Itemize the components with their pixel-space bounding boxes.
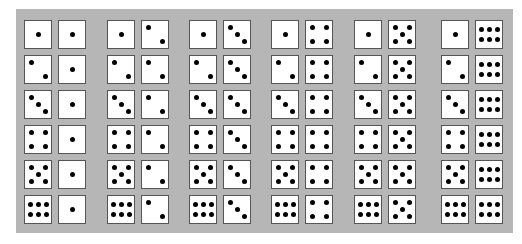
pip-icon <box>36 32 41 37</box>
pip-icon <box>36 172 41 177</box>
pip-icon <box>487 37 492 42</box>
pip-icon <box>44 212 49 217</box>
pip-icon <box>310 39 315 44</box>
pip-icon <box>446 165 451 170</box>
pip-icon <box>393 165 398 170</box>
pip-icon <box>146 60 151 65</box>
pip-icon <box>445 202 450 207</box>
pip-icon <box>44 202 49 207</box>
pip-icon <box>393 179 398 184</box>
pip-icon <box>209 212 214 217</box>
pip-icon <box>487 62 492 67</box>
pip-icon <box>310 95 315 100</box>
pip-icon <box>407 109 412 114</box>
pip-icon <box>460 144 465 149</box>
pip-icon <box>446 144 451 149</box>
pip-icon <box>479 107 484 112</box>
die-six-icon <box>475 90 503 119</box>
pip-icon <box>407 200 412 205</box>
pip-icon <box>324 25 329 30</box>
pip-icon <box>70 207 75 212</box>
pip-icon <box>495 72 500 77</box>
die-two-icon <box>354 55 382 84</box>
die-six-icon <box>441 195 469 224</box>
pip-icon <box>228 130 233 135</box>
die-one-icon <box>58 195 86 224</box>
pip-icon <box>70 67 75 72</box>
die-one-icon <box>58 125 86 154</box>
pip-icon <box>126 109 131 114</box>
pip-icon <box>495 37 500 42</box>
pip-icon <box>373 130 378 135</box>
pip-icon <box>290 130 295 135</box>
pip-icon <box>283 172 288 177</box>
pip-icon <box>400 102 405 107</box>
pip-icon <box>146 200 151 205</box>
pip-icon <box>407 60 412 65</box>
pip-icon <box>29 144 34 149</box>
pip-icon <box>29 165 34 170</box>
die-five-icon <box>24 160 52 189</box>
pip-icon <box>487 107 492 112</box>
pip-icon <box>28 202 33 207</box>
pip-icon <box>291 202 296 207</box>
pip-icon <box>290 109 295 114</box>
pip-icon <box>111 202 116 207</box>
die-six-icon <box>475 125 503 154</box>
pip-icon <box>160 214 165 219</box>
pip-icon <box>495 142 500 147</box>
pip-icon <box>228 165 233 170</box>
pip-icon <box>366 102 371 107</box>
pip-icon <box>324 39 329 44</box>
pip-icon <box>126 179 131 184</box>
pip-icon <box>358 212 363 217</box>
pip-icon <box>400 172 405 177</box>
die-six-icon <box>189 195 217 224</box>
pip-icon <box>242 179 247 184</box>
pip-icon <box>479 177 484 182</box>
die-six-icon <box>107 195 135 224</box>
die-five-icon <box>388 55 416 84</box>
die-two-icon <box>141 90 169 119</box>
pip-icon <box>479 142 484 147</box>
die-three-icon <box>223 125 251 154</box>
pip-icon <box>43 144 48 149</box>
die-two-icon <box>141 125 169 154</box>
pip-icon <box>495 62 500 67</box>
pip-icon <box>393 109 398 114</box>
die-three-icon <box>354 90 382 119</box>
pip-icon <box>487 142 492 147</box>
die-five-icon <box>271 160 299 189</box>
pip-icon <box>324 214 329 219</box>
die-one-icon <box>24 20 52 49</box>
die-five-icon <box>388 125 416 154</box>
die-four-icon <box>271 125 299 154</box>
pip-icon <box>193 212 198 217</box>
pip-icon <box>146 165 151 170</box>
pip-icon <box>283 202 288 207</box>
pip-icon <box>208 179 213 184</box>
pip-icon <box>487 72 492 77</box>
pip-icon <box>373 144 378 149</box>
pip-icon <box>487 97 492 102</box>
pip-icon <box>201 212 206 217</box>
pip-icon <box>208 144 213 149</box>
pip-icon <box>373 74 378 79</box>
die-two-icon <box>107 55 135 84</box>
pip-icon <box>446 179 451 184</box>
pip-icon <box>235 32 240 37</box>
pip-icon <box>461 212 466 217</box>
pip-icon <box>393 214 398 219</box>
pip-icon <box>194 179 199 184</box>
pip-icon <box>393 39 398 44</box>
pip-icon <box>29 130 34 135</box>
dice-outcome-panel <box>16 9 513 233</box>
die-three-icon <box>223 195 251 224</box>
die-five-icon <box>107 160 135 189</box>
pip-icon <box>310 109 315 114</box>
pip-icon <box>201 172 206 177</box>
die-six-icon <box>475 160 503 189</box>
pip-icon <box>310 165 315 170</box>
die-six-icon <box>475 55 503 84</box>
pip-icon <box>479 202 484 207</box>
